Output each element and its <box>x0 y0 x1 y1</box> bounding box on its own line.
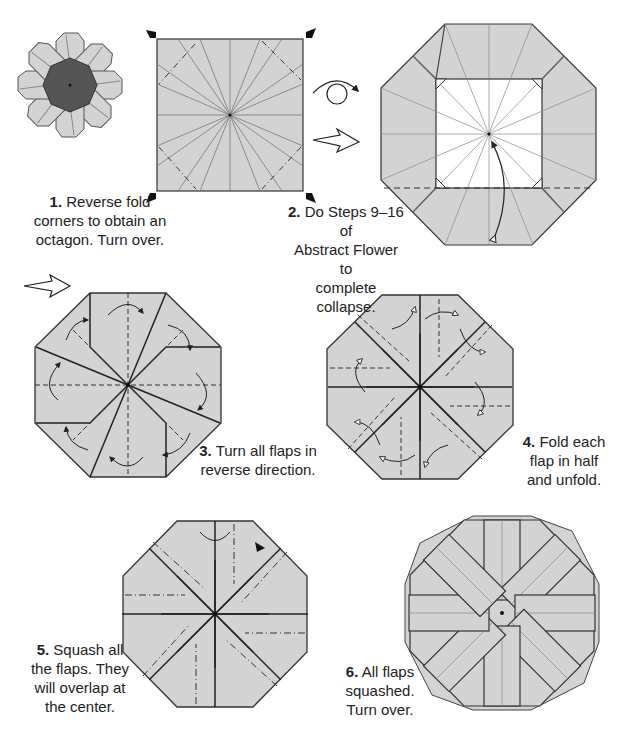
step5-octagon-diagram <box>122 521 308 707</box>
step4-octagon-diagram <box>327 295 513 479</box>
step1-square-diagram <box>157 39 303 191</box>
step3-octagon-diagram <box>35 293 221 477</box>
step-6-caption: 6. All flaps squashed. Turn over. <box>340 662 420 719</box>
diagram-canvas <box>0 0 623 741</box>
step-1-caption: 1. Reverse fold corners to obtain an oct… <box>20 192 180 249</box>
step-3-caption: 3. Turn all flaps in reverse direction. <box>198 441 318 479</box>
turn-over-icon <box>313 81 358 104</box>
step-4-caption: 4. Fold each flap in half and unfold. <box>514 432 614 489</box>
next-step-arrow-icon <box>313 129 359 152</box>
step2-octagon-diagram <box>381 24 596 245</box>
step6-octagon-diagram <box>405 516 599 710</box>
next-step-arrow-icon <box>24 275 70 297</box>
flower-preview-icon <box>18 33 122 137</box>
step-5-caption: 5. Squash all the flaps. They will overl… <box>25 640 135 716</box>
step-2-caption: 2. Do Steps 9–16 of Abstract Flower to c… <box>286 202 406 316</box>
